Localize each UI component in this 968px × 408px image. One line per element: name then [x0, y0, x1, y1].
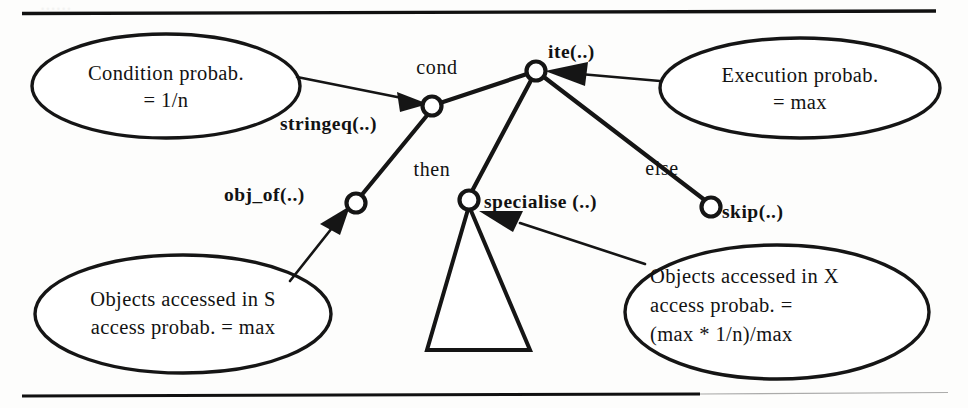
annotation-line-2: = max: [773, 91, 827, 113]
edge-label-then: then: [414, 158, 451, 180]
annotation-line-1: Execution probab.: [721, 64, 878, 87]
annotation-line-2: access probab. =: [650, 294, 793, 317]
node-label-obj-of: obj_of(..): [224, 184, 305, 206]
edge-label-else: else: [645, 157, 679, 179]
annotation-line-1: Objects accessed in X: [650, 265, 839, 288]
figure-svg: ...... Condition probab. = 1/n Execu: [0, 0, 968, 408]
leader-execution-to-ite: [580, 74, 660, 81]
node-skip[interactable]: [702, 198, 721, 217]
node-label-stringeq: stringeq(..): [280, 113, 377, 135]
node-specialise[interactable]: [460, 191, 479, 210]
node-label-specialise: specialise (..): [484, 191, 597, 213]
annotation-ellipse: [35, 255, 331, 373]
leader-condition-to-stringeq: [297, 77, 412, 100]
annotation-ellipse: [32, 34, 300, 138]
leader-objects-s-to-objof: [290, 228, 332, 281]
leader-objects-x-to-specialise: [520, 223, 645, 264]
node-label-ite: ite(..): [548, 41, 595, 63]
figure-canvas: ...... Condition probab. = 1/n Execu: [0, 0, 968, 408]
leader-arrowhead-objects-s: [320, 206, 350, 235]
annotation-line-2: access probab. = max: [91, 316, 276, 339]
node-stringeq[interactable]: [423, 97, 442, 116]
annotation-ellipse: [660, 38, 940, 138]
node-obj-of[interactable]: [347, 194, 366, 213]
edge-label-cond: cond: [416, 56, 457, 78]
annotation-execution-probability: Execution probab. = max: [660, 38, 940, 138]
annotation-line-2: = 1/n: [144, 89, 189, 111]
node-label-skip: skip(..): [722, 201, 783, 223]
annotation-line-1: Objects accessed in S: [90, 288, 275, 311]
node-ite[interactable]: [527, 62, 546, 81]
annotation-objects-accessed-in-x: Objects accessed in X access probab. = (…: [625, 245, 929, 379]
annotation-condition-probability: Condition probab. = 1/n: [32, 34, 300, 138]
bottom-horizontal-rule-faded: [700, 393, 948, 395]
leader-arrowhead-objects-x: [479, 211, 523, 232]
annotation-objects-accessed-in-s: Objects accessed in S access probab. = m…: [35, 255, 331, 373]
annotation-line-1: Condition probab.: [88, 62, 244, 85]
annotation-line-3: (max * 1/n)/max: [650, 323, 793, 346]
top-horizontal-rule: [22, 11, 936, 14]
bottom-horizontal-rule: [22, 394, 700, 396]
